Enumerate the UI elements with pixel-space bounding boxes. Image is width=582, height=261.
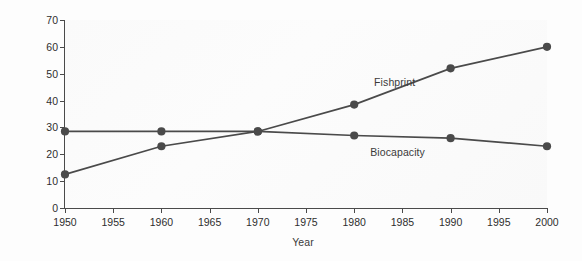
x-axis-title: Year [60,236,546,248]
data-point-marker [157,142,165,150]
y-axis-title: Global hectares (millions) [0,0,22,261]
y-tick-label: 40 [46,95,58,107]
data-point-marker [543,43,551,51]
data-point-marker [543,142,551,150]
y-tick-label: 50 [46,68,58,80]
y-tick-label: 0 [52,202,58,214]
data-point-marker [61,170,69,178]
y-tick-label: 70 [46,14,58,26]
x-axis-title-text: Year [292,236,314,248]
data-point-marker [447,64,455,72]
plot-area: 010203040506070 195019551960196519701975… [64,20,547,209]
series-label-biocapacity: Biocapacity [370,146,425,158]
y-tick-label: 30 [46,121,58,133]
data-series-layer [65,20,561,222]
y-tick-label: 10 [46,175,58,187]
data-point-marker [350,131,358,139]
series-line-fishprint [65,47,547,175]
series-label-fishprint: Fishprint [374,76,415,88]
data-point-marker [447,134,455,142]
y-tick-label: 60 [46,41,58,53]
data-point-marker [254,127,262,135]
data-point-marker [350,101,358,109]
data-point-marker [61,127,69,135]
y-tick-label: 20 [46,148,58,160]
chart-figure: Global hectares (millions) 0102030405060… [0,0,582,261]
data-point-marker [157,127,165,135]
series-line-biocapacity [65,131,547,146]
